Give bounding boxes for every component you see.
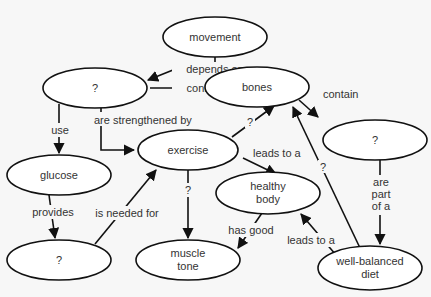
edge-label-leads-to-a-1: leads to a (253, 147, 302, 159)
node-muscle-tone: muscle tone (136, 240, 240, 280)
edge-label-are-strengthened-by: are strengthened by (94, 114, 192, 126)
edge-exercise-to-bones: ? (232, 106, 274, 137)
node-well-balanced-diet: well-balanced diet (318, 246, 422, 290)
edge-label-exercise-bones: ? (247, 116, 253, 128)
node-label-muscle: muscle (171, 247, 206, 259)
edge-label-of-a: of a (372, 200, 391, 212)
node-movement: movement (163, 17, 267, 57)
edge-label-is-needed-for: is needed for (95, 207, 159, 219)
node-label-well-balanced: well-balanced (335, 255, 403, 267)
node-unknown-top-left: ? (43, 68, 147, 108)
node-label-movement: movement (189, 31, 240, 43)
edge-leads-to-a-2: leads to a (284, 214, 338, 255)
node-unknown-bottom-left: ? (7, 240, 111, 280)
edge-label-are: are (373, 176, 389, 188)
edge-label-leads-to-a-2: leads to a (287, 234, 336, 246)
node-exercise: exercise (138, 130, 238, 170)
edge-are-part-of-a: are part of a (367, 160, 395, 244)
node-label-unknown-right: ? (372, 134, 378, 146)
node-unknown-right: ? (323, 120, 427, 160)
concept-map: depends on connect to contain use are st… (0, 0, 431, 297)
edge-has-good: has good (226, 213, 276, 248)
edge-label-provides: provides (32, 206, 74, 218)
edge-label-contain: contain (323, 88, 358, 100)
node-label-bones: bones (242, 81, 272, 93)
node-label-unknown-bottom-left: ? (56, 254, 62, 266)
node-label-healthy: healthy (250, 180, 286, 192)
edge-label-use: use (51, 124, 69, 136)
node-label-glucose: glucose (40, 169, 78, 181)
node-label-exercise: exercise (168, 144, 209, 156)
node-healthy-body: healthy body (216, 172, 320, 214)
edge-provides: provides (30, 195, 76, 238)
edge-label-exercise-muscle: ? (185, 184, 191, 196)
edge-leads-to-a-1: leads to a (243, 146, 304, 174)
node-label-body: body (256, 193, 280, 205)
edge-exercise-to-muscle: ? (182, 170, 194, 238)
node-bones: bones (205, 67, 309, 107)
node-label-tone: tone (177, 260, 198, 272)
node-label-unknown-top-left: ? (92, 82, 98, 94)
edge-label-part: part (372, 188, 391, 200)
node-glucose: glucose (7, 155, 111, 195)
edge-label-has-good: has good (228, 224, 273, 236)
edge-use: use (48, 104, 72, 153)
edge-label-diet-bones: ? (320, 161, 326, 173)
node-label-diet: diet (361, 268, 379, 280)
